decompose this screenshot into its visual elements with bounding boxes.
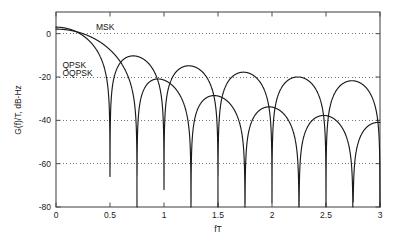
spectral-density-figure: 00.511.522.53 0-20-40-60-80 fT G(f)/T, d… — [0, 0, 401, 244]
chart-svg: 00.511.522.53 0-20-40-60-80 fT G(f)/T, d… — [0, 0, 401, 244]
y-tick-label: -60 — [39, 159, 52, 169]
y-axis-label: G(f)/T, dB-Hz — [13, 85, 23, 135]
x-tick-label: 2 — [270, 210, 275, 220]
x-tick-label: 0.5 — [104, 210, 116, 220]
x-axis-label: fT — [214, 224, 222, 234]
y-tick-label: 0 — [46, 29, 51, 39]
x-tick-label: 0 — [54, 210, 59, 220]
y-tick-label: -20 — [39, 72, 52, 82]
y-tick-label: -40 — [39, 115, 52, 125]
series-annotation-msk: MSK — [96, 22, 115, 32]
x-tick-label: 1.5 — [212, 210, 224, 220]
y-tick-label: -80 — [39, 202, 52, 212]
x-tick-label: 1 — [162, 210, 167, 220]
x-tick-label: 3 — [378, 210, 383, 220]
x-tick-label: 2.5 — [320, 210, 332, 220]
series-annotation-oqpsk: OQPSK — [62, 68, 93, 78]
